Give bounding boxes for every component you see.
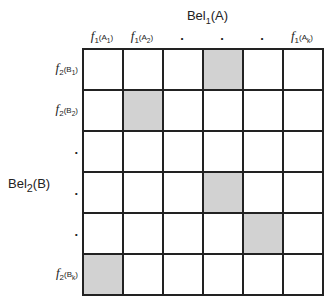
grid-cell [84, 91, 124, 132]
bel2-label: Bel2(B) [8, 176, 50, 194]
column-label: f1(Ak) [282, 28, 322, 45]
grid-cell [164, 50, 204, 91]
grid-cell [84, 173, 124, 214]
column-label: f1(A2) [122, 28, 162, 45]
grid-cell [244, 50, 284, 91]
grid-cell [244, 132, 284, 173]
grid-cell [164, 173, 204, 214]
row-label: f2(B1) [0, 60, 78, 77]
grid-cell [284, 255, 324, 296]
grid-cell-shaded [204, 50, 244, 91]
grid-cell [124, 214, 164, 255]
row-label: . [0, 224, 78, 239]
grid-cell [204, 214, 244, 255]
grid-cell [244, 91, 284, 132]
grid-cell-shaded [84, 255, 124, 296]
grid-cell [204, 91, 244, 132]
row-label: f2(B2) [0, 101, 78, 118]
grid-cell [284, 173, 324, 214]
bel1-title: Bel1(A) [0, 8, 335, 26]
row-label: . [0, 142, 78, 157]
grid-cell [124, 255, 164, 296]
grid-cell [244, 173, 284, 214]
grid-cell [204, 132, 244, 173]
grid-cell [84, 50, 124, 91]
grid-cell [84, 214, 124, 255]
grid-cell [284, 91, 324, 132]
column-label: . [242, 28, 282, 43]
grid-cell [124, 173, 164, 214]
grid-cell [84, 132, 124, 173]
column-label: . [202, 28, 242, 43]
grid-cell [164, 91, 204, 132]
grid-cell [284, 132, 324, 173]
belief-grid [82, 48, 324, 296]
grid-cell [284, 214, 324, 255]
grid-cell [244, 255, 284, 296]
grid-cell [124, 50, 164, 91]
column-label: . [162, 28, 202, 43]
grid-cell [204, 255, 244, 296]
grid-cell [164, 214, 204, 255]
grid-cell [164, 255, 204, 296]
grid-cell-shaded [204, 173, 244, 214]
column-label: f1(A1) [82, 28, 122, 45]
grid-cell [284, 50, 324, 91]
grid-cell [164, 132, 204, 173]
grid-cell [124, 132, 164, 173]
row-label: f2(Bk) [0, 265, 78, 282]
grid-cell-shaded [244, 214, 284, 255]
grid-cell-shaded [124, 91, 164, 132]
